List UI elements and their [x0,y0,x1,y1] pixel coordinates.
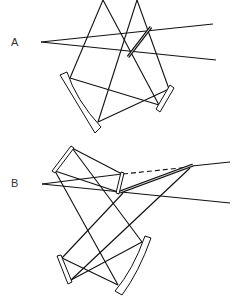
concave-mirror-b [115,236,151,295]
panel-b [42,146,230,295]
folding-mirror-b [52,146,74,173]
panel-a [41,0,216,133]
optical-diagram [0,0,240,307]
flat-mirror-a [156,85,174,112]
